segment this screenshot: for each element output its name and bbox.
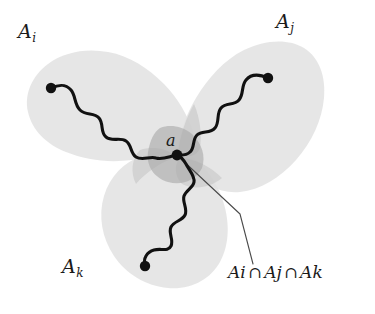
intersection-term1-base: A	[228, 262, 240, 282]
figure-container: Ai Aj Ak a Ai∩Aj∩Ak	[0, 0, 375, 314]
endpoint-dot-ai	[46, 83, 56, 93]
intersection-operator-2: ∩	[284, 263, 297, 282]
intersection-term3-subscript: k	[312, 262, 322, 282]
intersection-term1-subscript: i	[240, 262, 245, 282]
set-label-ai-base: A	[18, 20, 32, 42]
set-label-ak-subscript: k	[76, 266, 83, 280]
set-label-ak: Ak	[62, 257, 84, 279]
set-label-ai-subscript: i	[32, 31, 36, 45]
set-label-ak-base: A	[62, 255, 76, 277]
set-label-aj-base: A	[276, 10, 290, 32]
endpoint-dot-aj	[263, 73, 273, 83]
set-label-aj: Aj	[276, 12, 294, 34]
endpoint-dot-ak	[140, 261, 150, 271]
intersection-operator-1: ∩	[248, 263, 261, 282]
set-label-ai: Ai	[18, 22, 36, 44]
intersection-term2-base: A	[264, 262, 276, 282]
intersection-annotation-label: Ai∩Aj∩Ak	[228, 264, 323, 281]
common-point-dot	[172, 150, 183, 161]
intersection-term3-base: A	[300, 262, 312, 282]
set-label-aj-subscript: j	[290, 21, 294, 35]
common-point-label: a	[166, 133, 176, 149]
intersection-term2-subscript: j	[276, 262, 281, 282]
